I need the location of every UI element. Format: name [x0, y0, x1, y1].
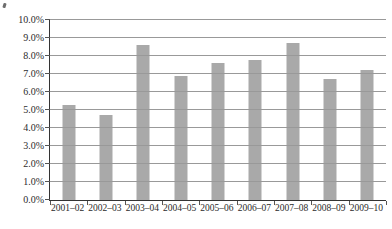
x-tick-label: 2008–09	[310, 203, 347, 214]
y-tick-label: 4.0%	[23, 123, 44, 133]
bar	[286, 43, 299, 200]
x-axis-tick	[125, 201, 126, 205]
gridline	[50, 37, 386, 38]
gridline	[50, 163, 386, 164]
y-axis-tick	[45, 19, 50, 20]
x-axis-tick	[274, 201, 275, 205]
y-axis-labels: 0.0%1.0%2.0%3.0%4.0%5.0%6.0%7.0%8.0%9.0%…	[0, 20, 44, 200]
bar	[137, 45, 150, 200]
y-tick-label: 3.0%	[23, 141, 44, 151]
y-tick-label: 1.0%	[23, 177, 44, 187]
y-tick-label: 7.0%	[23, 69, 44, 79]
x-axis-tick	[199, 201, 200, 205]
y-axis-tick	[45, 37, 50, 38]
y-tick-label: 2.0%	[23, 159, 44, 169]
x-tick-label: 2002–03	[86, 203, 123, 214]
y-axis-tick	[45, 127, 50, 128]
y-axis-tick	[45, 91, 50, 92]
y-axis-tick	[45, 73, 50, 74]
plot-area	[49, 20, 386, 201]
gridline	[50, 19, 386, 20]
x-axis-tick	[237, 201, 238, 205]
gridline	[50, 55, 386, 56]
bar	[212, 63, 225, 200]
gridline	[50, 181, 386, 182]
gridline	[50, 73, 386, 74]
x-tick-label: 2004–05	[161, 203, 198, 214]
x-tick-label: 2007–08	[273, 203, 310, 214]
gridline	[50, 127, 386, 128]
y-tick-label: 10.0%	[18, 15, 44, 25]
x-tick-label: 2009–10	[348, 203, 385, 214]
y-axis-tick	[45, 109, 50, 110]
y-tick-label: 8.0%	[23, 51, 44, 61]
bar	[62, 105, 75, 200]
x-axis-labels: 2001–022002–032003–042004–052005–062006–…	[49, 203, 385, 214]
y-tick-label: 0.0%	[23, 195, 44, 205]
x-tick-label: 2005–06	[198, 203, 235, 214]
y-axis-tick	[45, 181, 50, 182]
x-axis-tick	[386, 201, 387, 205]
x-axis-tick	[162, 201, 163, 205]
y-axis-tick	[45, 145, 50, 146]
y-axis-tick	[45, 163, 50, 164]
x-axis-tick	[87, 201, 88, 205]
bar-chart-figure: 0.0%1.0%2.0%3.0%4.0%5.0%6.0%7.0%8.0%9.0%…	[0, 0, 392, 229]
y-tick-label: 9.0%	[23, 33, 44, 43]
gridline	[50, 91, 386, 92]
gridline	[50, 145, 386, 146]
y-tick-label: 6.0%	[23, 87, 44, 97]
y-axis-tick	[45, 55, 50, 56]
x-axis-tick	[50, 201, 51, 205]
bar	[249, 60, 262, 200]
x-tick-label: 2003–04	[124, 203, 161, 214]
x-tick-label: 2006–07	[236, 203, 273, 214]
bar	[100, 115, 113, 200]
y-axis-tick	[45, 199, 50, 200]
gridline	[50, 109, 386, 110]
x-axis-tick	[311, 201, 312, 205]
x-tick-label: 2001–02	[49, 203, 86, 214]
y-tick-label: 5.0%	[23, 105, 44, 115]
x-axis-tick	[349, 201, 350, 205]
scan-artifact	[2, 3, 6, 9]
